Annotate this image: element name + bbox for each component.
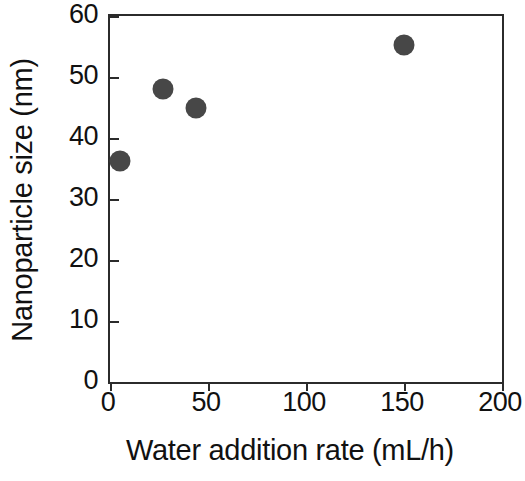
x-axis-title: Water addition rate (mL/h) bbox=[60, 436, 520, 465]
y-axis-tick bbox=[110, 321, 119, 323]
data-marker-layer bbox=[110, 16, 502, 382]
data-point-marker bbox=[394, 34, 415, 55]
x-axis-tick-label: 0 bbox=[63, 389, 153, 416]
plot-area bbox=[108, 14, 504, 384]
data-point-marker bbox=[152, 79, 173, 100]
y-axis-title-wrapper: Nanoparticle size (nm) bbox=[8, 0, 48, 400]
y-axis-tick bbox=[110, 199, 119, 201]
y-axis-tick bbox=[110, 77, 119, 79]
data-point-marker bbox=[186, 97, 207, 118]
scatter-plot-figure: 0102030405060 050100150200 Water additio… bbox=[0, 0, 525, 481]
y-axis-title: Nanoparticle size (nm) bbox=[8, 0, 37, 400]
y-axis-tick bbox=[110, 138, 119, 140]
x-axis-tick-label: 200 bbox=[455, 389, 525, 416]
y-axis-tick bbox=[110, 260, 119, 262]
x-axis-tick-label: 100 bbox=[259, 389, 349, 416]
x-axis-tick-label: 50 bbox=[161, 389, 251, 416]
x-axis-tick-label: 150 bbox=[357, 389, 447, 416]
y-axis-tick bbox=[110, 16, 119, 18]
data-point-marker bbox=[109, 151, 130, 172]
